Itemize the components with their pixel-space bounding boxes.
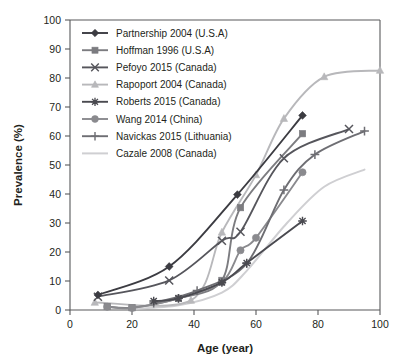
legend-item-label: Roberts 2015 (Canada) bbox=[116, 96, 221, 107]
y-tick-label: 10 bbox=[49, 275, 61, 287]
legend-item-navickas-2015-lithuania[interactable]: Navickas 2015 (Lithuania) bbox=[82, 131, 232, 142]
data-point-marker-circle bbox=[128, 304, 135, 311]
legend-item-wang-2014-china[interactable]: Wang 2014 (China) bbox=[82, 114, 202, 125]
x-tick-label: 0 bbox=[67, 318, 73, 330]
data-point-marker-circle bbox=[92, 116, 99, 123]
data-point-marker-diamond bbox=[91, 29, 98, 36]
data-point-marker-plus bbox=[91, 132, 99, 140]
x-tick-label: 80 bbox=[312, 318, 324, 330]
y-tick-label: 20 bbox=[49, 246, 61, 258]
x-tick-label: 100 bbox=[371, 318, 389, 330]
legend-item-label: Pefoyo 2015 (Canada) bbox=[116, 62, 217, 73]
legend-item-label: Rapoport 2004 (Canada) bbox=[116, 79, 227, 90]
x-tick-label: 40 bbox=[188, 318, 200, 330]
legend-item-partnership-2004-u-s-a[interactable]: Partnership 2004 (U.S.A) bbox=[82, 28, 228, 39]
x-axis-title: Age (year) bbox=[197, 342, 253, 354]
series-line bbox=[132, 170, 365, 309]
data-point-marker-asterisk bbox=[298, 217, 307, 226]
y-tick-label: 50 bbox=[49, 159, 61, 171]
legend-item-label: Navickas 2015 (Lithuania) bbox=[116, 131, 232, 142]
data-point-marker-circle bbox=[299, 169, 306, 176]
x-tick-label: 60 bbox=[250, 318, 262, 330]
data-point-marker-x-cross bbox=[345, 125, 353, 133]
data-point-marker-asterisk bbox=[218, 278, 227, 287]
data-point-marker-circle bbox=[252, 234, 259, 241]
series-cazale-2008-canada bbox=[132, 170, 365, 309]
chart-svg: 0102030405060708090100020406080100 Partn… bbox=[0, 0, 406, 364]
data-point-marker-square bbox=[92, 47, 98, 53]
y-tick-label: 0 bbox=[55, 304, 61, 316]
data-point-marker-diamond bbox=[94, 291, 102, 299]
data-point-marker-x-cross bbox=[237, 228, 245, 236]
y-tick-label: 30 bbox=[49, 217, 61, 229]
prevalence-vs-age-chart: 0102030405060708090100020406080100 Partn… bbox=[0, 0, 406, 364]
y-tick-label: 100 bbox=[43, 14, 61, 26]
legend-item-hoffman-1996-u-s-a[interactable]: Hoffman 1996 (U.S.A) bbox=[82, 45, 214, 56]
data-point-marker-asterisk bbox=[174, 294, 183, 303]
legend-item-label: Hoffman 1996 (U.S.A) bbox=[116, 45, 214, 56]
x-tick-label: 20 bbox=[126, 318, 138, 330]
legend-item-label: Cazale 2008 (Canada) bbox=[116, 148, 217, 159]
data-point-marker-x-cross bbox=[165, 276, 173, 284]
data-point-marker-asterisk bbox=[91, 98, 99, 106]
legend-layer: Partnership 2004 (U.S.A)Hoffman 1996 (U.… bbox=[82, 28, 232, 159]
y-tick-label: 80 bbox=[49, 72, 61, 84]
data-point-marker-square bbox=[299, 130, 305, 136]
data-point-marker-circle bbox=[104, 303, 111, 310]
legend-item-label: Partnership 2004 (U.S.A) bbox=[116, 28, 228, 39]
legend-item-cazale-2008-canada[interactable]: Cazale 2008 (Canada) bbox=[82, 148, 217, 159]
legend-item-pefoyo-2015-canada[interactable]: Pefoyo 2015 (Canada) bbox=[82, 62, 217, 73]
data-point-marker-plus bbox=[360, 127, 369, 136]
legend-item-rapoport-2004-canada[interactable]: Rapoport 2004 (Canada) bbox=[82, 79, 227, 90]
y-tick-label: 70 bbox=[49, 101, 61, 113]
legend-item-roberts-2015-canada[interactable]: Roberts 2015 (Canada) bbox=[82, 96, 221, 107]
y-tick-label: 40 bbox=[49, 188, 61, 200]
data-point-marker-circle bbox=[237, 247, 244, 254]
y-axis-title: Prevalence (%) bbox=[12, 124, 24, 206]
data-point-marker-square bbox=[237, 204, 243, 210]
data-point-marker-asterisk bbox=[242, 259, 251, 268]
data-point-marker-asterisk bbox=[149, 297, 158, 306]
y-tick-label: 90 bbox=[49, 43, 61, 55]
legend-item-label: Wang 2014 (China) bbox=[116, 114, 202, 125]
y-tick-label: 60 bbox=[49, 130, 61, 142]
